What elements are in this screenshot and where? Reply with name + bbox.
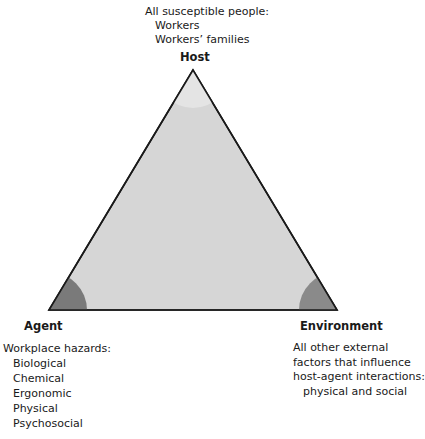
agent-item: Biological (3, 356, 111, 371)
environment-description: All other external factors that influenc… (293, 341, 425, 399)
environment-line: host-agent interactions: (293, 370, 425, 385)
agent-item: Chemical (3, 371, 111, 386)
agent-item: Ergonomic (3, 386, 111, 401)
agent-item: Physical (3, 401, 111, 416)
host-item: Workers’ families (145, 33, 269, 47)
agent-item: Psychosocial (3, 416, 111, 431)
environment-line: factors that influence (293, 356, 425, 371)
environment-line: All other external (293, 341, 425, 356)
agent-label: Agent (24, 319, 63, 333)
host-label: Host (180, 50, 210, 64)
agent-heading: Workplace hazards: (3, 341, 111, 356)
host-description: All susceptible people: Workers Workers’… (145, 5, 269, 47)
host-item: Workers (145, 19, 269, 33)
environment-line: physical and social (293, 385, 425, 400)
agent-description: Workplace hazards: Biological Chemical E… (3, 341, 111, 431)
host-heading: All susceptible people: (145, 5, 269, 19)
environment-label: Environment (300, 319, 383, 333)
